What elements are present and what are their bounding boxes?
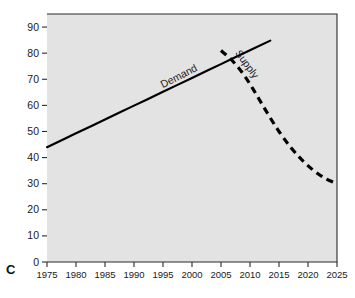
x-tick-label: 2025 <box>326 269 347 280</box>
y-tick-label: 90 <box>27 21 39 33</box>
x-tick-label: 1980 <box>65 269 86 280</box>
x-tick-label: 1995 <box>152 269 173 280</box>
x-tick-label: 1985 <box>94 269 115 280</box>
x-tick-label: 2015 <box>268 269 289 280</box>
y-tick-label: 70 <box>27 73 39 85</box>
x-tick-label: 1975 <box>36 269 57 280</box>
y-tick-label: 50 <box>27 125 39 137</box>
y-tick-label: 80 <box>27 47 39 59</box>
x-tick-label: 2010 <box>239 269 260 280</box>
y-axis: 0102030405060708090 <box>27 21 47 268</box>
x-tick-label: 2005 <box>210 269 231 280</box>
y-tick-label: 10 <box>27 229 39 241</box>
x-tick-label: 2000 <box>181 269 202 280</box>
y-tick-label: 20 <box>27 203 39 215</box>
chart-figure: 0102030405060708090 19751980198519901995… <box>0 0 355 298</box>
y-tick-label: 40 <box>27 151 39 163</box>
x-axis: 1975198019851990199520002005201020152020… <box>36 262 347 280</box>
y-tick-label: 30 <box>27 177 39 189</box>
panel-label-c: C <box>6 262 15 277</box>
x-tick-label: 1990 <box>123 269 144 280</box>
y-tick-label: 60 <box>27 99 39 111</box>
plot-area-background <box>47 14 337 262</box>
x-tick-label: 2020 <box>297 269 318 280</box>
y-tick-label: 0 <box>33 256 39 268</box>
supply-demand-chart: 0102030405060708090 19751980198519901995… <box>0 0 355 298</box>
